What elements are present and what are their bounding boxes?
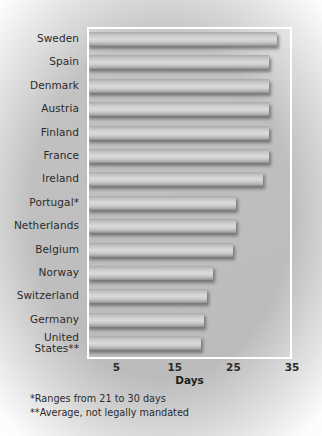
y-label-finland: Finland bbox=[41, 127, 79, 138]
x-axis-title: Days bbox=[87, 374, 292, 386]
y-label-unitedstates: United States** bbox=[34, 332, 79, 354]
y-axis-category-labels: SwedenSpainDenmarkAustriaFinlandFranceIr… bbox=[0, 27, 83, 359]
x-tick-25: 25 bbox=[226, 361, 241, 373]
y-label-denmark: Denmark bbox=[30, 80, 79, 91]
bar-spain bbox=[87, 55, 269, 69]
y-label-belgium: Belgium bbox=[35, 244, 79, 255]
bar-unitedstates bbox=[87, 336, 201, 350]
y-label-norway: Norway bbox=[39, 267, 79, 278]
x-tick-5: 5 bbox=[113, 361, 120, 373]
y-label-ireland: Ireland bbox=[42, 173, 79, 184]
bar-netherlands bbox=[87, 219, 236, 233]
vacation-days-bar-chart: SwedenSpainDenmarkAustriaFinlandFranceIr… bbox=[0, 0, 322, 436]
bar-belgium bbox=[87, 243, 233, 257]
y-label-portugal: Portugal* bbox=[29, 197, 79, 208]
y-label-netherlands: Netherlands bbox=[14, 220, 79, 231]
footnote-portugal: *Ranges from 21 to 30 days bbox=[30, 392, 189, 406]
y-label-spain: Spain bbox=[49, 56, 79, 67]
y-label-germany: Germany bbox=[30, 314, 79, 325]
bar-germany bbox=[87, 313, 204, 327]
bars-plot-area bbox=[87, 27, 292, 359]
bar-ireland bbox=[87, 172, 263, 186]
y-label-france: France bbox=[43, 150, 79, 161]
x-tick-15: 15 bbox=[168, 361, 183, 373]
bar-france bbox=[87, 149, 269, 163]
bar-switzerland bbox=[87, 289, 207, 303]
bar-norway bbox=[87, 266, 213, 280]
y-label-sweden: Sweden bbox=[37, 33, 79, 44]
bar-finland bbox=[87, 126, 269, 140]
footnote-united-states: **Average, not legally mandated bbox=[30, 406, 189, 420]
chart-footnotes: *Ranges from 21 to 30 days **Average, no… bbox=[30, 392, 189, 420]
bar-austria bbox=[87, 102, 269, 116]
y-label-switzerland: Switzerland bbox=[17, 290, 79, 301]
bar-sweden bbox=[87, 32, 277, 46]
bar-denmark bbox=[87, 79, 269, 93]
y-label-austria: Austria bbox=[41, 103, 79, 114]
x-tick-35: 35 bbox=[285, 361, 300, 373]
bar-portugal bbox=[87, 196, 236, 210]
